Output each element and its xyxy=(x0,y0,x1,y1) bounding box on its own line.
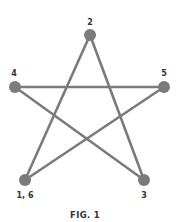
node-3 xyxy=(138,174,150,186)
node-label-2: 2 xyxy=(87,18,93,27)
node-label-5: 5 xyxy=(161,69,167,78)
node-label-3: 3 xyxy=(141,191,147,200)
edge-2-3 xyxy=(90,35,144,180)
node-5 xyxy=(158,81,170,93)
figure-caption: FIG. 1 xyxy=(70,210,100,220)
node-label-1-6: 1, 6 xyxy=(17,191,34,200)
node-4 xyxy=(9,81,21,93)
node-2 xyxy=(84,29,96,41)
star-diagram: 2 4 5 1, 6 3 FIG. 1 xyxy=(0,0,194,222)
node-1-6 xyxy=(19,174,31,186)
node-label-4: 4 xyxy=(11,69,17,78)
edge-3-4 xyxy=(15,87,144,180)
